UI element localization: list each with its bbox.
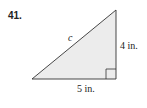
right-triangle-diagram: c 4 in. 5 in. <box>0 0 147 108</box>
triangle-shape <box>32 10 116 79</box>
hypotenuse-label: c <box>68 32 73 43</box>
vertical-leg-label: 4 in. <box>120 40 138 51</box>
horizontal-leg-label: 5 in. <box>77 83 95 94</box>
